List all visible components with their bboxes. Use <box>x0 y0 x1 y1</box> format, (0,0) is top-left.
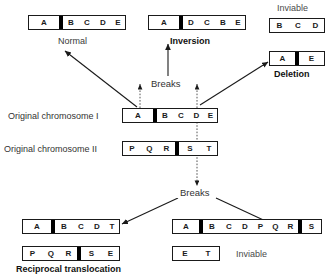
segment-P: P <box>123 142 141 155</box>
arrow-to-normal <box>65 51 137 107</box>
segment-B: B <box>55 220 73 233</box>
chromosome-dicentric: A B C D P Q R S <box>172 219 322 234</box>
chromosome-acentric-fragment: E T <box>172 246 220 261</box>
chromosome-inversion: A D C B E <box>148 15 246 30</box>
segment-C: C <box>221 220 237 233</box>
segment-D: D <box>95 16 111 29</box>
segment-Q: Q <box>42 247 60 260</box>
segment-C: C <box>79 16 95 29</box>
segment-C: C <box>199 16 215 29</box>
segment-D: D <box>183 16 199 29</box>
label-inversion: Inversion <box>170 37 210 46</box>
arrow-to-deletion <box>200 62 268 105</box>
segment-R: R <box>158 142 175 155</box>
arrow-to-reciprocal-translocation <box>122 198 178 224</box>
segment-B: B <box>270 19 289 32</box>
chromosome-original-2: P Q R S T <box>122 141 218 156</box>
segment-A: A <box>23 220 51 233</box>
segment-E: E <box>299 52 324 65</box>
label-breaks-upper: Breaks <box>148 79 184 89</box>
chromosome-translocation-1: A B C D T <box>22 219 120 234</box>
segment-S: S <box>81 247 102 260</box>
segment-R: R <box>283 220 298 233</box>
chromosome-normal: A B C D E <box>28 15 126 30</box>
label-breaks-lower: Breaks <box>177 188 213 198</box>
segment-A: A <box>173 220 199 233</box>
segment-C: C <box>289 19 307 32</box>
chromosome-original-1: A B C D E <box>122 108 218 123</box>
segment-S: S <box>179 142 201 155</box>
segment-C: C <box>173 109 189 122</box>
segment-C: C <box>73 220 89 233</box>
segment-T: T <box>105 220 119 233</box>
segment-A: A <box>270 52 295 65</box>
segment-T: T <box>197 247 219 260</box>
segment-D: D <box>89 220 105 233</box>
segment-P: P <box>253 220 268 233</box>
segment-R: R <box>60 247 77 260</box>
label-normal: Normal <box>58 37 87 46</box>
chromosome-translocation-2: P Q R S E <box>22 246 120 261</box>
label-inviable-top: Inviable <box>277 4 308 13</box>
segment-T: T <box>201 142 217 155</box>
chromosome-inviable-fragment: B C D <box>269 18 325 33</box>
segment-E: E <box>102 247 119 260</box>
segment-E: E <box>173 247 197 260</box>
chromosome-deletion: A E <box>269 51 325 66</box>
segment-A: A <box>29 16 59 29</box>
label-inviable-bottom: Inviable <box>236 250 267 259</box>
segment-D: D <box>237 220 253 233</box>
segment-Q: Q <box>268 220 283 233</box>
chromosome-rearrangement-diagram: A B C D E Normal A D C B E Inversion Inv… <box>0 0 336 280</box>
segment-D: D <box>307 19 324 32</box>
label-original-chromosome-1: Original chromosome I <box>8 112 99 121</box>
segment-A: A <box>123 109 153 122</box>
segment-B: B <box>157 109 173 122</box>
segment-E: E <box>204 109 217 122</box>
segment-Q: Q <box>141 142 158 155</box>
connector-lines <box>0 0 336 280</box>
segment-B: B <box>215 16 231 29</box>
label-original-chromosome-2: Original chromosome II <box>4 145 97 154</box>
segment-S: S <box>302 220 321 233</box>
segment-P: P <box>23 247 42 260</box>
segment-E: E <box>231 16 245 29</box>
segment-B: B <box>203 220 221 233</box>
segment-D: D <box>189 109 204 122</box>
segment-A: A <box>149 16 179 29</box>
segment-E: E <box>111 16 125 29</box>
segment-B: B <box>63 16 79 29</box>
label-deletion: Deletion <box>274 70 310 79</box>
label-reciprocal-translocation: Reciprocal translocation <box>16 265 121 274</box>
